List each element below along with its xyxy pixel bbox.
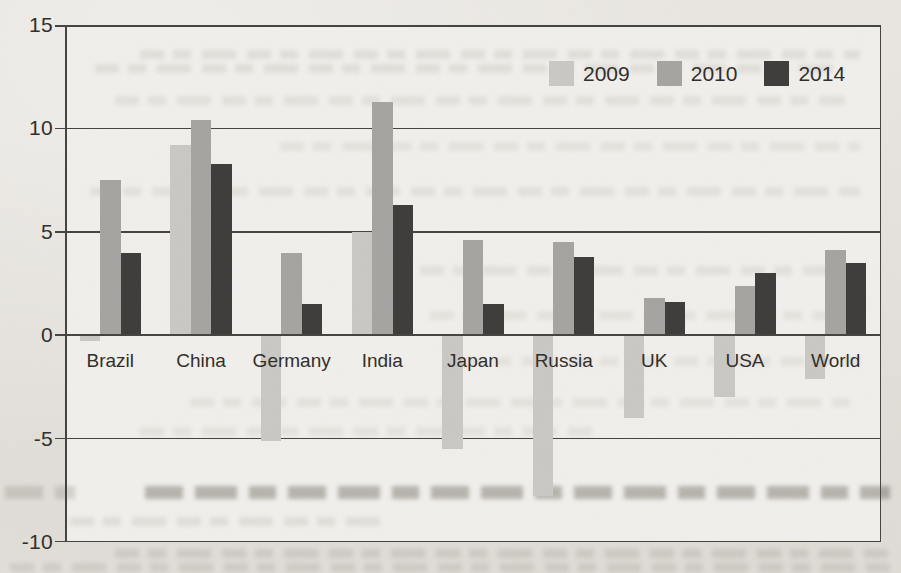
gridline-y-0 <box>65 334 881 336</box>
x-axis-category-label: USA <box>725 350 764 372</box>
bar-uk-2009 <box>624 335 645 418</box>
bar-brazil-2009 <box>80 335 101 341</box>
bar-uk-2010 <box>644 298 665 335</box>
bar-china-2014 <box>211 164 232 336</box>
x-axis-category-label: Japan <box>447 350 499 372</box>
bleed-smudge-13 <box>115 549 890 558</box>
legend-item-2014: 2014 <box>764 61 845 86</box>
bar-russia-2014 <box>574 257 595 336</box>
legend-item-2010: 2010 <box>657 61 738 86</box>
bar-india-2010 <box>372 102 393 336</box>
y-axis-tick--10 <box>55 541 65 543</box>
y-axis-tick-label: -10 <box>3 531 53 553</box>
bar-india-2014 <box>393 205 414 335</box>
bar-russia-2010 <box>553 242 574 335</box>
y-axis-tick-label: -5 <box>3 428 53 450</box>
y-axis-tick-15 <box>55 25 65 27</box>
bar-world-2014 <box>846 263 867 335</box>
x-axis-category-label: India <box>362 350 403 372</box>
y-axis-line <box>65 25 67 542</box>
bar-brazil-2014 <box>121 253 142 336</box>
x-axis-category-label: China <box>176 350 226 372</box>
bar-germany-2010 <box>281 253 302 336</box>
x-axis-category-label: UK <box>641 350 667 372</box>
legend-swatch-2014 <box>764 61 789 86</box>
gridline-y-15 <box>65 25 881 27</box>
y-axis-tick-0 <box>55 334 65 336</box>
gridline-y--5 <box>65 438 881 440</box>
y-axis-tick-5 <box>55 231 65 233</box>
legend-item-label: 2014 <box>798 61 845 86</box>
bar-china-2009 <box>170 145 191 335</box>
y-axis-tick-10 <box>55 128 65 130</box>
bar-germany-2014 <box>302 304 323 335</box>
legend-swatch-2009 <box>549 61 574 86</box>
scanned-book-page: 151050-5-10BrazilChinaGermanyIndiaJapanR… <box>0 0 901 573</box>
gridline-y-10 <box>65 128 881 130</box>
bar-brazil-2010 <box>100 180 121 335</box>
bar-usa-2014 <box>755 273 776 335</box>
x-axis-category-label: Brazil <box>87 350 135 372</box>
y-axis-tick-label: 15 <box>3 14 53 36</box>
y-axis-tick-label: 5 <box>3 221 53 243</box>
legend-item-2009: 2009 <box>549 61 630 86</box>
gridline-y--10 <box>65 541 881 543</box>
x-axis-category-label: World <box>811 350 860 372</box>
chart-plot-area: 151050-5-10BrazilChinaGermanyIndiaJapanR… <box>65 25 881 542</box>
bar-usa-2010 <box>735 286 756 336</box>
bar-india-2009 <box>352 232 373 335</box>
bleed-smudge-14 <box>10 563 890 572</box>
legend: 200920102014 <box>549 61 845 86</box>
bar-china-2010 <box>191 120 212 335</box>
legend-swatch-2010 <box>657 61 682 86</box>
y-axis-tick--5 <box>55 438 65 440</box>
bar-japan-2014 <box>483 304 504 335</box>
x-axis-category-label: Germany <box>253 350 331 372</box>
x-axis-category-label: Russia <box>535 350 593 372</box>
legend-item-label: 2009 <box>583 61 630 86</box>
bar-japan-2010 <box>463 240 484 335</box>
y-axis-tick-label: 10 <box>3 117 53 139</box>
y-axis-tick-label: 0 <box>3 324 53 346</box>
plot-border-right <box>880 25 882 542</box>
bar-uk-2014 <box>665 302 686 335</box>
legend-item-label: 2010 <box>691 61 738 86</box>
bar-world-2010 <box>825 250 846 335</box>
